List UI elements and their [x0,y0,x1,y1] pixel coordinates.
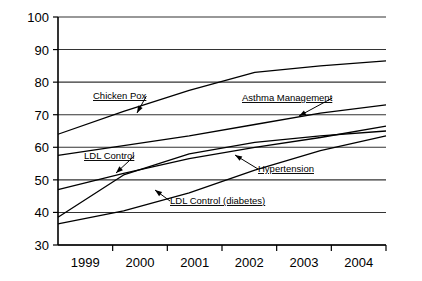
ytick-label-30: 30 [35,238,49,253]
annotation-arrowhead-ldl-control-diabetes [155,190,162,196]
xtick-label-1999: 1999 [71,255,100,270]
annotation-label-hypertension: Hypertension [258,163,314,174]
ytick-label-70: 70 [35,108,49,123]
ytick-label-50: 50 [35,173,49,188]
annotation-label-chicken-pox: Chicken Pox [93,90,147,101]
xtick-label-2002: 2002 [235,255,264,270]
annotation-label-asthma-management: Asthma Management [242,92,333,103]
chart-canvas: 3040506070809010019992000200120022003200… [0,0,422,281]
ytick-label-100: 100 [27,10,49,25]
line-chart: 3040506070809010019992000200120022003200… [0,0,422,281]
ytick-label-60: 60 [35,140,49,155]
ytick-label-40: 40 [35,205,49,220]
xtick-label-2004: 2004 [344,255,373,270]
xtick-label-2003: 2003 [290,255,319,270]
annotation-label-ldl-control: LDL Control [84,150,134,161]
xtick-label-2001: 2001 [180,255,209,270]
annotation-arrowhead-hypertension [235,155,242,161]
ytick-label-90: 90 [35,43,49,58]
annotation-label-ldl-control-diabetes: LDL Control (diabetes) [170,195,265,206]
ytick-label-80: 80 [35,75,49,90]
xtick-label-2000: 2000 [126,255,155,270]
